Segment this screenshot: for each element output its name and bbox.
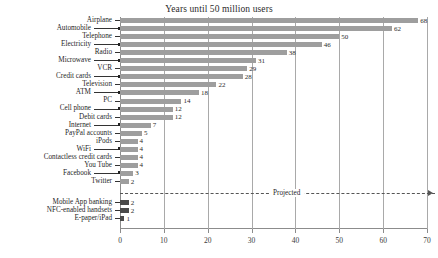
bar-row: 2 xyxy=(120,200,427,205)
x-tick-mark xyxy=(252,229,253,233)
bar xyxy=(120,58,256,63)
bar-value-label: 3 xyxy=(133,169,139,177)
plot-area: 6862504638312928221814121275444432221 01… xyxy=(120,17,427,229)
bar-row: 2 xyxy=(120,208,427,213)
bar-value-label: 12 xyxy=(173,113,182,121)
category-labels: AirplaneAutomobileTelephoneElectricityRa… xyxy=(0,17,120,229)
gridline xyxy=(427,17,428,229)
label-leader-line xyxy=(94,125,120,126)
bar-row: 4 xyxy=(120,155,427,160)
category-label-text: Contactless credit cards xyxy=(44,154,113,161)
bar-row: 1 xyxy=(120,216,427,221)
bar-value-label: 4 xyxy=(138,137,144,145)
bar-row: 14 xyxy=(120,99,427,104)
bar-value-label: 7 xyxy=(151,121,157,129)
bar xyxy=(120,131,142,136)
bar xyxy=(120,123,151,128)
bar-value-label: 22 xyxy=(216,81,225,89)
bar-row: 7 xyxy=(120,123,427,128)
bar-value-label: 29 xyxy=(247,65,256,73)
bar xyxy=(120,99,181,104)
bar-value-label: 68 xyxy=(418,17,427,25)
bar-value-label: 1 xyxy=(124,215,130,223)
x-tick-label: 10 xyxy=(160,236,168,245)
bar-row: 3 xyxy=(120,171,427,176)
bar-row: 4 xyxy=(120,147,427,152)
label-leader-line xyxy=(94,60,120,61)
bar-value-label: 46 xyxy=(322,41,331,49)
x-tick-label: 70 xyxy=(423,236,431,245)
bar-value-label: 2 xyxy=(129,178,135,186)
category-label-text: Cell phone xyxy=(60,105,92,112)
category-label-text: VCR xyxy=(97,65,113,72)
chart-title: Years until 50 million users xyxy=(0,4,438,14)
bar-value-label: 38 xyxy=(287,49,296,57)
bar-value-label: 12 xyxy=(173,105,182,113)
bar-row: 50 xyxy=(120,34,427,39)
x-tick-mark xyxy=(295,229,296,233)
x-tick-mark xyxy=(164,229,165,233)
bar xyxy=(120,171,133,176)
bar-row: 31 xyxy=(120,58,427,63)
bar xyxy=(120,147,138,152)
bar-row: 12 xyxy=(120,115,427,120)
bar-row: 29 xyxy=(120,66,427,71)
x-tick-label: 60 xyxy=(379,236,387,245)
bar-row: 38 xyxy=(120,50,427,55)
label-leader-line xyxy=(94,92,120,93)
x-tick-mark xyxy=(120,229,121,233)
category-label-text: Debit cards xyxy=(79,114,113,121)
label-leader-line xyxy=(94,28,120,29)
bar-value-label: 18 xyxy=(199,89,208,97)
bar xyxy=(120,26,392,31)
bar xyxy=(120,42,322,47)
bar-value-label: 4 xyxy=(138,145,144,153)
bar xyxy=(120,200,129,205)
bar-row: 28 xyxy=(120,74,427,79)
projected-annotation-label: Projected xyxy=(269,189,304,197)
x-tick-label: 20 xyxy=(204,236,212,245)
category-label-text: ATM xyxy=(76,89,92,96)
bar xyxy=(120,107,173,112)
bar xyxy=(120,179,129,184)
x-tick-label: 30 xyxy=(248,236,256,245)
bar xyxy=(120,155,138,160)
bar-row: 4 xyxy=(120,139,427,144)
category-label-text: WiFi xyxy=(77,146,93,153)
bar xyxy=(120,18,418,23)
label-leader-line xyxy=(94,76,120,77)
bar xyxy=(120,66,247,71)
bar xyxy=(120,90,199,95)
bar-value-label: 28 xyxy=(243,73,252,81)
category-label-text: Internet xyxy=(69,122,92,129)
bar xyxy=(120,50,287,55)
x-tick-mark xyxy=(427,229,428,233)
category-label-text: Twitter xyxy=(91,178,113,185)
category-label-text: iPods xyxy=(96,138,113,145)
x-tick-mark xyxy=(208,229,209,233)
category-label-text: Radio xyxy=(95,49,113,56)
projected-arrowhead-icon xyxy=(428,190,433,196)
bar xyxy=(120,82,216,87)
bar-row: 4 xyxy=(120,163,427,168)
label-leader-line xyxy=(94,44,120,45)
category-label-text: Electricity xyxy=(61,41,92,48)
category-label-text: E-paper/iPad xyxy=(74,215,113,222)
label-leader-line xyxy=(94,109,120,110)
bar-row: 62 xyxy=(120,26,427,31)
bar-row: 5 xyxy=(120,131,427,136)
bar xyxy=(120,208,129,213)
bar-value-label: 50 xyxy=(339,33,348,41)
category-label-text: You Tube xyxy=(84,162,113,169)
category-label-text: PayPal accounts xyxy=(65,130,113,137)
bar-value-label: 62 xyxy=(392,25,401,33)
x-axis-line xyxy=(120,228,427,229)
bar-row: 46 xyxy=(120,42,427,47)
bar-value-label: 14 xyxy=(181,97,190,105)
bar-row: 68 xyxy=(120,18,427,23)
x-tick-mark xyxy=(339,229,340,233)
bar-value-label: 4 xyxy=(138,161,144,169)
bar-value-label: 2 xyxy=(129,207,135,215)
bar-row: 22 xyxy=(120,82,427,87)
bar xyxy=(120,74,243,79)
